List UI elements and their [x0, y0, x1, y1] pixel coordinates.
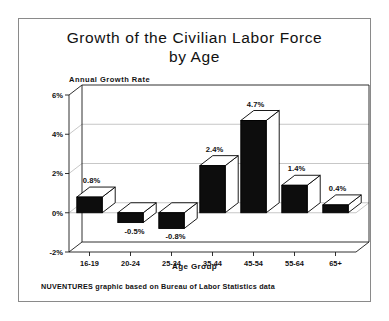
y-tick-label: -2% [49, 248, 63, 257]
bar [159, 203, 197, 229]
x-axis-title: Age Group [19, 262, 370, 271]
bar [118, 203, 156, 223]
bar-chart-plot: -2%0%2%4%6% 16-1920-2425-3435-4445-5455-… [19, 19, 372, 303]
bar [282, 175, 320, 212]
bar-value-label: -0.5% [125, 227, 145, 236]
figure-frame: Growth of the Civilian Labor Force by Ag… [18, 18, 371, 302]
bar [241, 111, 279, 213]
bar-value-label: 1.4% [288, 164, 306, 173]
bar-value-label: 0.8% [83, 176, 101, 185]
bar-value-label: 0.4% [329, 184, 347, 193]
bar [323, 195, 361, 213]
y-tick-label: 6% [52, 91, 63, 100]
y-tick-label: 4% [52, 130, 63, 139]
y-axis-tick-labels: -2%0%2%4%6% [49, 91, 63, 257]
bar-value-label: -0.8% [166, 232, 186, 241]
bar [200, 156, 238, 213]
y-tick-label: 2% [52, 169, 63, 178]
bar [77, 187, 115, 213]
y-tick-label: 0% [52, 209, 63, 218]
bar-value-label: 2.4% [206, 145, 224, 154]
bar-series [77, 111, 361, 229]
bar-value-label: 4.7% [247, 100, 265, 109]
source-caption: NUVENTURES graphic based on Bureau of La… [41, 282, 275, 291]
